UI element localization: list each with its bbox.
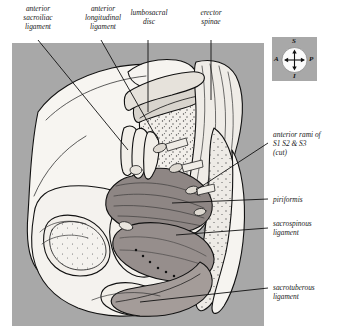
compass-label-inferior: I <box>293 73 296 80</box>
label-sacrotuberous-ligament: sacrotuberous ligament <box>273 283 337 301</box>
compass-label-anterior: A <box>274 56 279 63</box>
label-anterior-sacroiliac-ligament: anterior sacroiliac ligament <box>6 4 70 32</box>
label-lumbosacral-disc: lumbosacral disc <box>118 8 180 26</box>
label-sacrospinous-ligament: sacrospinous ligament <box>273 219 337 237</box>
label-anterior-rami-s1-s2-s3: anterior rami of S1 S2 & S3 (cut) <box>273 130 339 158</box>
label-erector-spinae: erector spinae <box>185 8 237 26</box>
compass-label-posterior: P <box>309 56 313 63</box>
orientation-compass: S I A P <box>272 37 317 81</box>
anatomy-figure: anterior sacroiliac ligament anterior lo… <box>0 0 339 336</box>
label-piriformis: piriformis <box>273 195 337 204</box>
compass-label-superior: S <box>292 38 296 45</box>
